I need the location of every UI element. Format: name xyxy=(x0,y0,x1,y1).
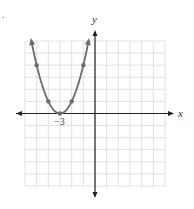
x-axis-label: x xyxy=(178,108,183,119)
vertex-tick-label: −3 xyxy=(54,117,65,127)
axes xyxy=(16,30,174,198)
parabola-graph xyxy=(0,0,194,209)
y-axis-label: y xyxy=(92,14,97,25)
